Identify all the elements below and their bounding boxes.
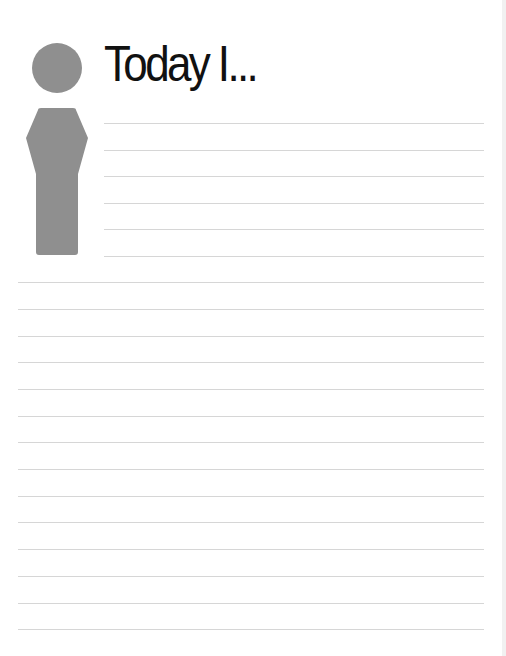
writing-line	[18, 282, 484, 283]
writing-line	[104, 123, 484, 124]
writing-line	[18, 496, 484, 497]
writing-line	[18, 629, 484, 630]
writing-line	[18, 442, 484, 443]
person-body-icon	[24, 108, 90, 256]
writing-line	[104, 176, 484, 177]
writing-line	[104, 203, 484, 204]
writing-line	[104, 256, 484, 257]
writing-line	[18, 522, 484, 523]
writing-line	[18, 549, 484, 550]
writing-line	[18, 336, 484, 337]
writing-line	[18, 309, 484, 310]
page-title: Today I...	[104, 34, 256, 94]
person-head-icon	[32, 43, 82, 93]
writing-line	[18, 362, 484, 363]
writing-line	[18, 416, 484, 417]
writing-line	[18, 469, 484, 470]
writing-line	[18, 389, 484, 390]
writing-line	[18, 603, 484, 604]
page-edge	[502, 0, 506, 656]
writing-line	[104, 150, 484, 151]
writing-line	[18, 576, 484, 577]
writing-line	[104, 229, 484, 230]
